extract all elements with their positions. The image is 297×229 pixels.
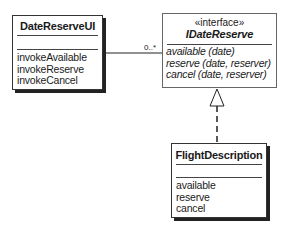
class-flight-description[interactable]: FlightDescription available reserve canc…: [171, 143, 267, 218]
operation: invokeCancel: [17, 75, 87, 87]
operation: cancel: [176, 203, 216, 215]
operations-list: available reserve cancel: [176, 180, 216, 215]
divider: [17, 35, 98, 36]
operation: available (date): [166, 46, 271, 58]
interface-idate-reserve[interactable]: «interface» IDateReserve available (date…: [162, 13, 277, 88]
class-name: FlightDescription: [172, 149, 266, 161]
operation: cancel (date, reserver): [166, 69, 271, 81]
class-name: DateReserveUI: [13, 20, 102, 32]
stereotype: «interface»: [163, 17, 276, 28]
class-date-reserve-ui[interactable]: DateReserveUI invokeAvailable invokeRese…: [12, 15, 103, 90]
operation: invokeAvailable: [17, 52, 87, 64]
operation: available: [176, 180, 216, 192]
interface-name: IDateReserve: [163, 28, 276, 40]
divider: [17, 49, 98, 50]
divider: [176, 164, 262, 165]
realization-arrowhead-icon: [210, 89, 224, 106]
association-multiplicity: 0..*: [144, 43, 156, 52]
operations-list: invokeAvailable invokeReserve invokeCanc…: [17, 52, 87, 87]
operations-list: available (date) reserve (date, reserver…: [166, 46, 271, 81]
divider: [176, 177, 262, 178]
